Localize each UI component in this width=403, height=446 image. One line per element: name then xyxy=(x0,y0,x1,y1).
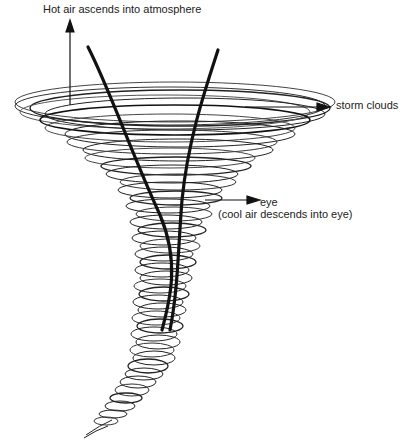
hot-air-label: Hot air ascends into atmosphere xyxy=(43,3,201,16)
tornado-diagram xyxy=(0,0,403,446)
storm-clouds-label: storm clouds xyxy=(336,99,398,112)
funnel-coils xyxy=(15,82,335,438)
storm-clouds-arrow xyxy=(245,103,330,111)
eye-note-label: (cool air descends into eye) xyxy=(218,208,353,221)
eye-arrow xyxy=(205,196,260,204)
